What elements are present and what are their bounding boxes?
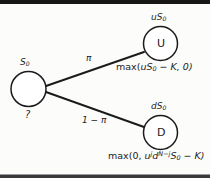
branch-label-down-probability: 1 − π (82, 116, 106, 125)
binomial-tree-figure: S0 ? π 1 − π U uS0 max(uS0 − K, 0) D dS0… (0, 0, 210, 178)
up-node-value: uS0 (151, 13, 166, 22)
root-node-value: S0 (20, 58, 30, 67)
down-node-payoff: max(0, ujdN−jS0 − K) (108, 151, 204, 162)
root-node-unknown-value: ? (25, 110, 30, 120)
node-letter-down: D (157, 127, 166, 138)
node-circle-root (11, 72, 46, 107)
up-node-payoff: max(uS0 − K, 0) (116, 62, 193, 73)
node-letter-up: U (157, 38, 165, 49)
branch-label-up-probability: π (86, 54, 91, 63)
down-node-value: dS0 (151, 102, 166, 111)
